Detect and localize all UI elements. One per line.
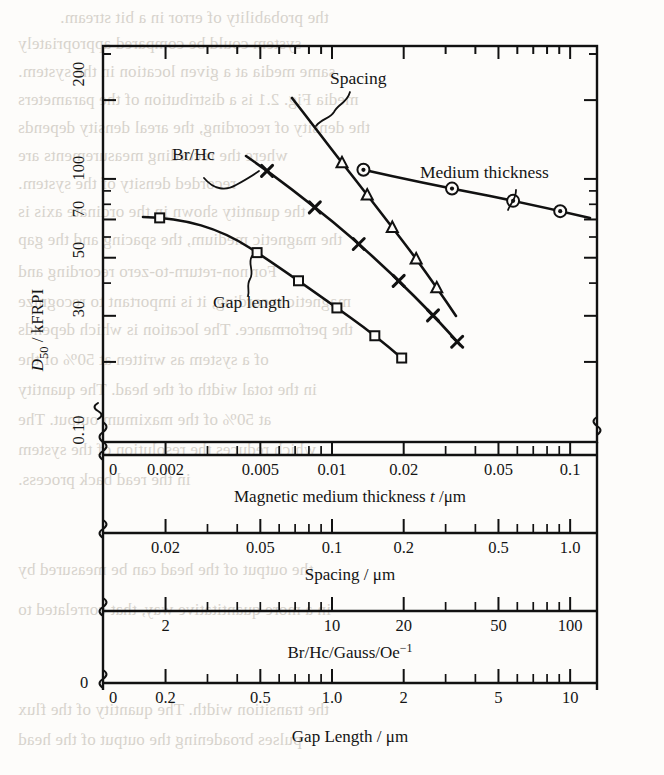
axis-tick-label: 1.0: [322, 688, 343, 707]
y-axis-title-sub: 50: [37, 346, 51, 359]
axis-tick-label: 0.2: [393, 538, 414, 557]
y-tick-label: 30: [69, 301, 88, 318]
axis-title-br-hc-pre: Br/Hc/Gauss/Oe: [287, 643, 399, 662]
axis-title-br-hc-sup: −1: [400, 641, 413, 655]
axis-ticks-gap-length: [166, 669, 571, 683]
leader-line-gap-length: [248, 256, 252, 296]
y-tick-label: 100: [69, 156, 88, 181]
top-axis-ticks: [166, 46, 571, 59]
y-tick-label: 70: [69, 201, 88, 218]
axis-title-pre: Magnetic medium thickness: [234, 487, 430, 506]
axis-title-gap-length: Gap Length / μm: [292, 727, 408, 746]
axis-tick-label: 0.02: [151, 538, 180, 557]
y-axis-zero-label: 0: [80, 673, 88, 692]
axis-tick-label: 2: [400, 688, 408, 707]
curve-label-gap-length: Gap length: [213, 292, 291, 312]
plot-frame: [103, 46, 597, 442]
axis-tick-label: 10: [324, 616, 341, 635]
axis-tick-label: 50: [490, 616, 507, 635]
axis-tick-label: 0.02: [389, 460, 418, 479]
axis-ticks-br-hc: [166, 597, 571, 611]
axis-tick-label: 0: [109, 460, 117, 479]
axis-tick-label: 0.01: [318, 460, 347, 479]
axis-tick-label: 1.0: [560, 538, 581, 557]
axis-tick-labels-gap-length: 00.20.51.02510: [109, 688, 578, 707]
axis-tick-label: 20: [395, 616, 412, 635]
axis-tick-label: 0.002: [147, 460, 184, 479]
axis-tick-label: 0.005: [242, 460, 279, 479]
y-tick-label: 50: [69, 242, 88, 259]
y-axis-title: D50 / kFRPI: [28, 288, 51, 372]
y-axis-break-symbol: [95, 403, 102, 419]
axis-tick-label: 0.05: [484, 460, 513, 479]
leader-line-br-hc: [204, 171, 259, 189]
axis-title-spacing: Spacing / μm: [305, 565, 395, 584]
axis-band-br-hc: 2102050100 Br/Hc/Gauss/Oe−1: [100, 597, 598, 662]
axis-title-post: /μm: [435, 487, 466, 506]
axis-tick-label: 0.5: [250, 688, 271, 707]
axis-tick-label: 0.2: [155, 688, 176, 707]
axis-band-gap-length: 00.20.51.02510 Gap Length / μm: [100, 669, 598, 746]
svg-text:D50 / kFRPI: D50 / kFRPI: [28, 288, 51, 372]
axis-tick-label: 0.05: [246, 538, 275, 557]
curve-label-spacing: Spacing: [330, 68, 387, 88]
series-gap-length: [143, 213, 406, 362]
axis-band-spacing: 0.020.050.10.20.51.0 Spacing / μm: [100, 519, 598, 584]
axis-tick-label: 5: [494, 688, 502, 707]
y-tick-label: 200: [69, 62, 88, 87]
curve-label-br-hc: Br/Hc: [172, 144, 215, 164]
y-tick-label: 0.10: [69, 416, 88, 445]
axis-tick-label: 0.5: [488, 538, 509, 557]
axis-title-medium-thickness: Magnetic medium thickness t /μm: [234, 487, 466, 506]
axis-tick-labels-spacing: 0.020.050.10.20.51.0: [151, 538, 580, 557]
axis-tick-labels-medium-thickness: 00.0020.0050.010.020.050.1: [109, 460, 580, 479]
axis-tick-labels-br-hc: 2102050100: [161, 616, 582, 635]
y-axis-title-rest: / kFRPI: [28, 288, 47, 346]
curve-label-medium-thickness: Medium thickness: [420, 162, 549, 182]
axis-tick-label: 2: [161, 616, 169, 635]
right-axis-ticks: [584, 54, 597, 362]
axis-title-br-hc: Br/Hc/Gauss/Oe−1: [287, 641, 412, 662]
axis-tick-label: 0.1: [560, 460, 581, 479]
axis-tick-label: 100: [558, 616, 583, 635]
leader-line-spacing: [316, 92, 350, 126]
y-tick-labels: 200 100 70 50 30 0.10: [69, 62, 88, 445]
axis-tick-label: 10: [562, 688, 579, 707]
y-axis-title-main: D: [28, 358, 47, 372]
axis-tick-label: 0: [109, 688, 117, 707]
axis-band-medium-thickness: 00.0020.0050.010.020.050.1 Magnetic medi…: [100, 441, 598, 506]
axis-tick-label: 0.1: [322, 538, 343, 557]
axis-ticks-spacing: [166, 519, 571, 533]
left-axis-ticks: [103, 54, 116, 362]
figure-magnetic-recording-d50: 200 100 70 50 30 0.10 D50 / kFRPI: [0, 0, 664, 775]
